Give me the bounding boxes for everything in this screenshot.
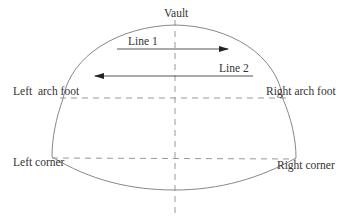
vault-arch xyxy=(63,25,283,99)
tunnel-section-diagram xyxy=(0,0,353,218)
corner-line xyxy=(52,158,296,159)
line2-label: Line 2 xyxy=(219,63,249,75)
vault-label: Vault xyxy=(164,8,188,20)
left-side-wall xyxy=(52,99,63,157)
invert-arc xyxy=(52,157,296,190)
left-arch-foot-label: Left arch foot xyxy=(13,86,79,98)
line1-label: Line 1 xyxy=(128,36,158,48)
right-side-wall xyxy=(283,99,296,158)
right-arch-foot-label: Right arch foot xyxy=(266,86,336,98)
left-corner-label: Left corner xyxy=(13,157,64,169)
right-corner-label: Right corner xyxy=(277,160,335,172)
